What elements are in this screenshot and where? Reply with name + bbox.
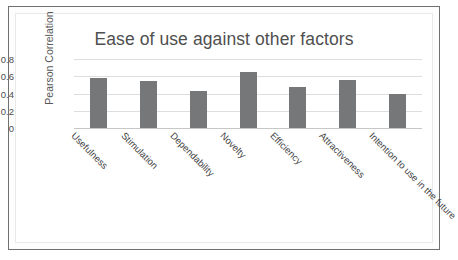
y-tick-label: 0 bbox=[9, 123, 14, 134]
chart-title: Ease of use against other factors bbox=[16, 29, 432, 50]
bar bbox=[240, 72, 257, 128]
x-axis-category-labels: UsefulnessStimulationDependabilityNovelt… bbox=[74, 130, 434, 240]
x-tick-label: Novelty bbox=[218, 130, 248, 160]
x-tick-label: Efficiency bbox=[268, 130, 304, 166]
y-tick-label: 0.2 bbox=[1, 105, 14, 116]
bar bbox=[140, 81, 157, 128]
bar bbox=[289, 87, 306, 128]
y-tick-label: 0.4 bbox=[1, 88, 14, 99]
y-tick-label: 0.8 bbox=[1, 54, 14, 65]
bar bbox=[190, 91, 207, 128]
y-tick-label: 0.6 bbox=[1, 71, 14, 82]
x-tick-label: Usefulness bbox=[69, 130, 110, 171]
y-axis-tick-labels: 0.80.60.40.20 bbox=[0, 59, 14, 128]
bar bbox=[90, 78, 107, 128]
plot-area bbox=[74, 59, 422, 128]
bar bbox=[339, 80, 356, 128]
page-frame: Ease of use against other factors Pearso… bbox=[8, 6, 440, 250]
chart-container: Ease of use against other factors Pearso… bbox=[15, 13, 433, 243]
x-tick-label: Stimulation bbox=[119, 130, 160, 171]
x-tick-label: Dependability bbox=[169, 130, 217, 178]
bar-series bbox=[74, 59, 422, 128]
x-tick-label: Attractiveness bbox=[318, 130, 368, 180]
y-axis-title: Pearson Correlation bbox=[43, 0, 55, 117]
bar bbox=[389, 94, 406, 128]
x-tick-label: Intention to use in the future bbox=[367, 130, 458, 221]
